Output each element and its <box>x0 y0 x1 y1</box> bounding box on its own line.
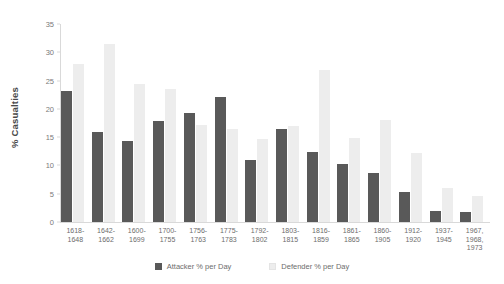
bar-group <box>306 24 337 222</box>
y-axis-tick-label: 25 <box>46 76 54 85</box>
bar-attacker[interactable] <box>215 97 226 222</box>
bar-defender[interactable] <box>319 70 330 222</box>
bar-attacker[interactable] <box>122 141 133 222</box>
bar-defender[interactable] <box>73 64 84 222</box>
x-axis-tick-label: 1700- 1755 <box>152 227 183 244</box>
y-axis-tick-label: 35 <box>46 20 54 29</box>
bar-group <box>244 24 275 222</box>
defender-swatch-icon <box>269 263 276 270</box>
bar-defender[interactable] <box>134 84 145 222</box>
chart-legend: Attacker % per Day Defender % per Day <box>0 262 504 271</box>
bar-group <box>121 24 152 222</box>
bar-defender[interactable] <box>196 125 207 222</box>
bar-group <box>152 24 183 222</box>
bar-attacker[interactable] <box>61 91 72 222</box>
bar-defender[interactable] <box>472 196 483 222</box>
x-axis-tick-label: 1642- 1662 <box>91 227 122 244</box>
bar-attacker[interactable] <box>460 212 471 222</box>
y-axis-tick-label: 15 <box>46 133 54 142</box>
x-axis-tick-label: 1618- 1648 <box>60 227 91 244</box>
bars-layer <box>60 24 490 222</box>
legend-label-defender: Defender % per Day <box>281 262 349 271</box>
x-axis-tick-label: 1912- 1920 <box>398 227 429 244</box>
y-axis-tick-label: 20 <box>46 104 54 113</box>
x-axis-tick-label: 1600- 1699 <box>121 227 152 244</box>
bar-group <box>214 24 245 222</box>
y-axis-tick-label: 0 <box>50 218 54 227</box>
bar-attacker[interactable] <box>276 129 287 222</box>
bar-defender[interactable] <box>442 188 453 222</box>
y-axis-title: % Casualties <box>9 58 20 178</box>
y-axis-tick-label: 5 <box>50 189 54 198</box>
x-axis-tick-label: 1861- 1865 <box>336 227 367 244</box>
bar-defender[interactable] <box>257 139 268 222</box>
x-axis-tick-label: 1792- 1802 <box>244 227 275 244</box>
bar-defender[interactable] <box>227 129 238 222</box>
bar-group <box>91 24 122 222</box>
bar-group <box>183 24 214 222</box>
bar-attacker[interactable] <box>184 113 195 222</box>
bar-attacker[interactable] <box>92 132 103 222</box>
x-axis-tick-label: 1756- 1763 <box>183 227 214 244</box>
x-axis-tick-label: 1803- 1815 <box>275 227 306 244</box>
legend-item-attacker: Attacker % per Day <box>155 262 232 271</box>
x-axis-tick-label: 1937- 1945 <box>429 227 460 244</box>
y-axis-tick-label: 30 <box>46 48 54 57</box>
legend-label-attacker: Attacker % per Day <box>167 262 232 271</box>
x-axis-line <box>60 222 490 223</box>
bar-group <box>459 24 490 222</box>
bar-attacker[interactable] <box>245 160 256 222</box>
x-axis-tick-label: 1860- 1905 <box>367 227 398 244</box>
bar-defender[interactable] <box>165 89 176 222</box>
bar-attacker[interactable] <box>430 211 441 222</box>
bar-group <box>60 24 91 222</box>
bar-defender[interactable] <box>411 153 422 222</box>
bar-attacker[interactable] <box>153 121 164 222</box>
bar-attacker[interactable] <box>399 192 410 222</box>
bar-group <box>367 24 398 222</box>
bar-chart: % Casualties 05101520253035 1618- 164816… <box>0 0 504 284</box>
x-axis-tick-label: 1816- 1859 <box>306 227 337 244</box>
bar-attacker[interactable] <box>307 152 318 222</box>
x-axis-tick-label: 1967, 1968, 1973 <box>459 227 490 253</box>
x-axis-tick-label: 1775- 1783 <box>214 227 245 244</box>
bar-attacker[interactable] <box>337 164 348 222</box>
attacker-swatch-icon <box>155 263 162 270</box>
y-axis-tick-label: 10 <box>46 161 54 170</box>
bar-defender[interactable] <box>380 120 391 222</box>
bar-group <box>275 24 306 222</box>
bar-defender[interactable] <box>288 126 299 222</box>
bar-defender[interactable] <box>104 44 115 222</box>
bar-defender[interactable] <box>349 138 360 222</box>
bar-attacker[interactable] <box>368 173 379 222</box>
plot-area: 05101520253035 <box>60 24 490 222</box>
x-axis-labels: 1618- 16481642- 16621600- 16991700- 1755… <box>60 227 490 261</box>
bar-group <box>398 24 429 222</box>
bar-group <box>336 24 367 222</box>
bar-group <box>429 24 460 222</box>
legend-item-defender: Defender % per Day <box>269 262 349 271</box>
